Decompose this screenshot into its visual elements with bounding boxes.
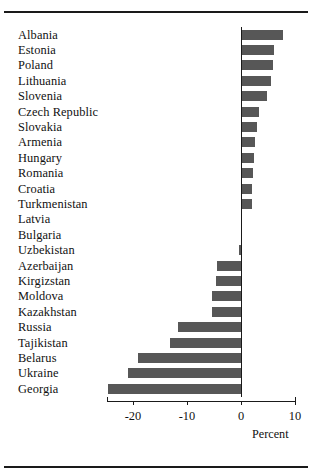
bar [241, 107, 259, 117]
x-tick-label: 0 [238, 410, 244, 422]
x-axis-line [107, 401, 296, 402]
bar [178, 322, 241, 332]
x-tick-label: 10 [289, 410, 301, 422]
bar [216, 276, 241, 286]
category-label: Belarus [18, 352, 57, 364]
bar [212, 307, 241, 317]
bar [241, 76, 271, 86]
category-label: Georgia [18, 382, 58, 394]
x-axis-tick [187, 401, 188, 405]
bar-row: Moldova [0, 289, 312, 304]
bar [128, 368, 241, 378]
bar-row: Latvia [0, 212, 312, 227]
bar-row: Kirgizstan [0, 273, 312, 288]
bar [138, 353, 241, 363]
category-label: Croatia [18, 182, 55, 194]
bar [217, 261, 241, 271]
axis-endcap-left [107, 397, 108, 401]
bar-row: Tajikistan [0, 335, 312, 350]
x-axis-tick [241, 401, 242, 405]
bar-row: Hungary [0, 150, 312, 165]
bar-row: Bulgaria [0, 227, 312, 242]
bar-row: Russia [0, 319, 312, 334]
bar-row: Slovakia [0, 119, 312, 134]
bar-row: Estonia [0, 42, 312, 57]
category-label: Kirgizstan [18, 275, 70, 287]
category-label: Turkmenistan [18, 198, 88, 210]
bar-row: Armenia [0, 135, 312, 150]
bar-row: Romania [0, 166, 312, 181]
x-axis-tick [295, 401, 296, 405]
bar-row: Georgia [0, 381, 312, 396]
bar [241, 122, 257, 132]
x-axis-tick [133, 401, 134, 405]
category-label: Moldova [18, 290, 63, 302]
bar [241, 153, 254, 163]
category-label: Russia [18, 321, 52, 333]
bar-row: Kazakhstan [0, 304, 312, 319]
bar-row: Turkmenistan [0, 196, 312, 211]
bar-row: Uzbekistan [0, 242, 312, 257]
category-label: Slovenia [18, 90, 62, 102]
category-label: Slovakia [18, 121, 62, 133]
bar-row: Slovenia [0, 89, 312, 104]
category-label: Azerbaijan [18, 259, 73, 271]
bar [241, 199, 252, 209]
bar [241, 137, 255, 147]
category-label: Bulgaria [18, 229, 61, 241]
bar-row: Croatia [0, 181, 312, 196]
category-label: Poland [18, 59, 53, 71]
category-label: Albania [18, 28, 58, 40]
category-label: Latvia [18, 213, 50, 225]
bar [241, 184, 252, 194]
x-tick-label: -20 [125, 410, 142, 422]
bar-row: Czech Republic [0, 104, 312, 119]
bar [108, 384, 241, 394]
bar-rows: AlbaniaEstoniaPolandLithuaniaSloveniaCze… [0, 27, 312, 396]
category-label: Uzbekistan [18, 244, 75, 256]
bar [212, 291, 241, 301]
bar-row: Azerbaijan [0, 258, 312, 273]
category-label: Estonia [18, 44, 56, 56]
bar [241, 60, 273, 70]
category-label: Ukraine [18, 367, 59, 379]
bar-row: Ukraine [0, 366, 312, 381]
bar-chart-figure: AlbaniaEstoniaPolandLithuaniaSloveniaCze… [0, 0, 312, 474]
bar [241, 30, 283, 40]
category-label: Lithuania [18, 75, 66, 87]
category-label: Romania [18, 167, 63, 179]
bar-row: Poland [0, 58, 312, 73]
x-axis-label: Percent [252, 428, 289, 440]
bar-row: Albania [0, 27, 312, 42]
category-label: Czech Republic [18, 105, 98, 117]
bar [241, 91, 267, 101]
zero-axis-line [241, 27, 242, 397]
plot-area: AlbaniaEstoniaPolandLithuaniaSloveniaCze… [0, 13, 312, 466]
bar-row: Belarus [0, 350, 312, 365]
category-label: Tajikistan [18, 336, 68, 348]
bar-row: Lithuania [0, 73, 312, 88]
x-tick-label: -10 [179, 410, 196, 422]
category-label: Kazakhstan [18, 306, 77, 318]
category-label: Armenia [18, 136, 62, 148]
category-label: Hungary [18, 152, 62, 164]
bar [241, 45, 274, 55]
bar [241, 168, 253, 178]
bar [170, 338, 241, 348]
bottom-rule [4, 466, 308, 468]
